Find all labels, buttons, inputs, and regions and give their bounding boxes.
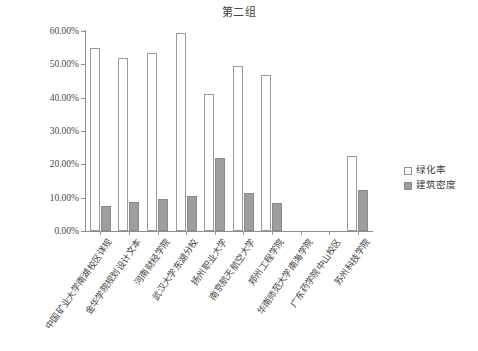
y-axis-tick [81,198,86,199]
x-axis-tick [129,231,130,235]
x-axis-tick [301,231,302,235]
bar-group [319,31,340,231]
bar-green-rate [233,66,243,231]
legend-item[interactable]: 绿化率 [404,163,456,178]
y-axis-tick-label: 50.00% [50,59,79,69]
y-axis-tick-label: 60.00% [50,26,79,36]
chart-container: 第二组 0.00%10.00%20.00%30.00%40.00%50.00%6… [0,0,478,351]
y-axis-tick [81,98,86,99]
y-axis-tick-label: 0.00% [54,226,79,236]
bar-green-rate [147,53,157,231]
y-axis-tick [81,231,86,232]
x-axis-tick [329,231,330,235]
bar-building-density [187,196,197,231]
x-axis-tick [158,231,159,235]
y-axis-tick-label: 10.00% [50,193,79,203]
bar-group [233,31,254,231]
legend-swatch-icon [404,182,412,190]
x-axis-tick [243,231,244,235]
bar-green-rate [90,48,100,231]
legend-label: 建筑密度 [416,178,456,193]
x-axis-tick [186,231,187,235]
bar-building-density [101,206,111,231]
bar-group [147,31,168,231]
bar-building-density [244,193,254,231]
y-axis-tick [81,164,86,165]
y-axis-tick [81,64,86,65]
x-axis-tick [358,231,359,235]
bar-green-rate [176,33,186,231]
bar-group [90,31,111,231]
legend-swatch-icon [404,167,412,175]
bar-building-density [129,202,139,231]
bar-group [290,31,311,231]
bar-group [204,31,225,231]
bar-green-rate [261,75,271,231]
plot-area: 0.00%10.00%20.00%30.00%40.00%50.00%60.00… [86,31,372,231]
bar-group [347,31,368,231]
bar-building-density [215,158,225,231]
legend-item[interactable]: 建筑密度 [404,178,456,193]
y-axis-tick-label: 30.00% [50,126,79,136]
bar-green-rate [347,156,357,231]
bar-green-rate [204,94,214,231]
chart-legend: 绿化率建筑密度 [404,163,456,193]
bar-green-rate [118,58,128,231]
x-axis-labels: 中国矿业大学南湖校区详规金华学院规划设计文本河南财经学院武汉大学东湖分校扬州职业… [0,236,478,351]
chart-title: 第二组 [0,3,478,19]
x-axis-tick [100,231,101,235]
bar-building-density [358,190,368,231]
bar-building-density [272,203,282,231]
y-axis-tick-label: 20.00% [50,159,79,169]
x-axis-tick [215,231,216,235]
legend-label: 绿化率 [416,163,446,178]
bar-group [118,31,139,231]
x-axis-tick [272,231,273,235]
bar-group [176,31,197,231]
y-axis-tick [81,31,86,32]
y-axis-tick [81,131,86,132]
bar-group [261,31,282,231]
bar-building-density [158,199,168,231]
y-axis-tick-label: 40.00% [50,93,79,103]
